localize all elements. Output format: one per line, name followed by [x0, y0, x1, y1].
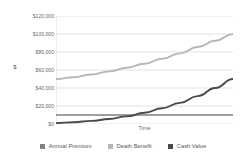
legend-item[interactable]: Cash Value [168, 142, 207, 150]
y-axis-tick-label: $120,000 [22, 13, 54, 19]
legend-item[interactable]: Death Benefit [108, 142, 152, 150]
plot-area [56, 16, 233, 124]
legend-swatch-icon [168, 144, 173, 149]
gridlines [56, 16, 233, 124]
legend-item-label: Death Benefit [117, 142, 152, 150]
plot-svg [56, 16, 233, 124]
y-axis-tick-label: $60,000 [22, 67, 54, 73]
chart-legend: Annual PremiumDeath BenefitCash Value [0, 139, 246, 153]
legend-item[interactable]: Annual Premium [40, 142, 92, 150]
series-lines [56, 34, 233, 123]
y-axis-tick-labels: $120,000$100,000$80,000$60,000$40,000$20… [20, 0, 54, 158]
series-line [56, 34, 233, 79]
y-axis-tick-label: $40,000 [22, 85, 54, 91]
legend-item-label: Cash Value [177, 142, 207, 150]
legend-item-label: Annual Premium [49, 142, 92, 150]
y-axis-tick-label: $20,000 [22, 103, 54, 109]
y-axis-tick-label: $100,000 [22, 31, 54, 37]
line-chart: $ $120,000$100,000$80,000$60,000$40,000$… [0, 0, 246, 158]
y-axis-tick-label: $80,000 [22, 49, 54, 55]
series-line [56, 79, 233, 123]
x-axis-title: Time [56, 124, 233, 132]
legend-swatch-icon [108, 144, 113, 149]
y-axis-tick-label: $0 [22, 121, 54, 127]
legend-swatch-icon [40, 144, 45, 149]
